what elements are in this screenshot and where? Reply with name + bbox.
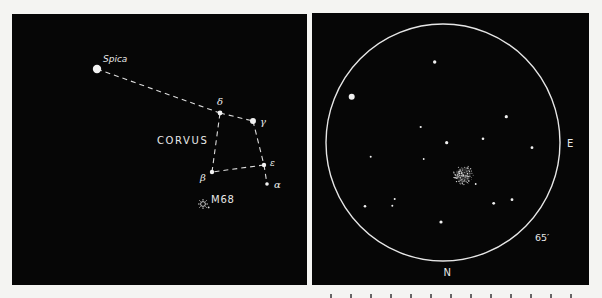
cluster-star [469, 170, 470, 171]
cluster-star [453, 173, 454, 174]
constellation-line-epsilon-beta [212, 165, 264, 172]
cluster-star [466, 176, 467, 177]
cluster-star [463, 175, 464, 176]
cluster-star [467, 175, 468, 176]
cluster-star [468, 183, 469, 184]
cluster-star [471, 177, 472, 178]
field-star [511, 198, 514, 201]
field-of-view-circle [326, 24, 560, 261]
cluster-star [462, 170, 463, 171]
cluster-star [466, 168, 467, 169]
star-label-beta: β [199, 172, 206, 183]
cluster-star [458, 167, 459, 168]
cluster-star [464, 177, 465, 178]
constellation-stars: Spicaδγεβα [93, 54, 281, 190]
cluster-star [471, 173, 472, 174]
cluster-star [471, 170, 472, 171]
star-spica [93, 65, 101, 73]
m68-cluster [453, 166, 473, 185]
cluster-star [459, 173, 460, 174]
field-star [445, 141, 448, 144]
field-stars [349, 60, 534, 223]
cluster-star [466, 170, 467, 171]
cluster-star [456, 175, 457, 176]
cluster-star [459, 182, 460, 183]
star-label-gamma: γ [260, 116, 266, 127]
cluster-star [463, 184, 464, 185]
cluster-star [465, 169, 466, 170]
cluster-star [458, 176, 459, 177]
field-star [505, 115, 508, 118]
cluster-star [464, 178, 465, 179]
field-star [370, 156, 372, 158]
cluster-star [473, 175, 474, 176]
constellation-lines [97, 69, 267, 184]
cluster-star [470, 168, 471, 169]
m68-label: M68 [211, 194, 235, 205]
cluster-star [464, 179, 465, 180]
cluster-star [471, 179, 472, 180]
star-epsilon [262, 163, 266, 167]
cropped-caption-text [312, 291, 602, 298]
field-star [531, 146, 534, 149]
cluster-star [460, 184, 461, 185]
cluster-star [454, 174, 455, 175]
cluster-star [454, 177, 455, 178]
constellation-line-spica-delta [97, 69, 220, 113]
cluster-star [453, 177, 454, 178]
finder-chart: Spicaδγεβα CORVUS M68 [12, 14, 307, 285]
cluster-star [457, 174, 458, 175]
cluster-star [460, 178, 461, 179]
cluster-star [457, 171, 458, 172]
cluster-star [469, 175, 470, 176]
cluster-star [462, 181, 463, 182]
cluster-star [470, 173, 471, 174]
constellation-line-epsilon-alpha [264, 165, 267, 184]
star-label-delta: δ [217, 96, 223, 107]
cluster-star [469, 176, 470, 177]
cluster-star [456, 178, 457, 179]
field-star [433, 60, 436, 63]
cluster-star [464, 172, 465, 173]
field-star [364, 205, 367, 208]
cluster-star [462, 183, 463, 184]
cluster-star [464, 172, 465, 173]
star-gamma [250, 118, 256, 124]
cluster-star [472, 173, 473, 174]
cluster-star [467, 173, 468, 174]
cluster-star [468, 178, 469, 179]
field-of-view-label: 65′ [535, 232, 549, 243]
star-delta [218, 111, 223, 116]
cluster-star [469, 171, 470, 172]
cluster-star [461, 179, 462, 180]
constellation-line-delta-gamma [220, 113, 253, 121]
finder-chart-panel: Spicaδγεβα CORVUS M68 [12, 14, 307, 285]
cluster-star [460, 180, 461, 181]
cluster-star [467, 167, 468, 168]
cluster-star [460, 175, 461, 176]
field-star [492, 202, 495, 205]
cluster-star [468, 180, 469, 181]
cluster-star [459, 175, 460, 176]
cluster-star [453, 172, 454, 173]
field-star [349, 94, 355, 100]
constellation-line-beta-delta [212, 113, 220, 172]
cluster-star [457, 177, 458, 178]
cluster-star [460, 178, 461, 179]
cluster-star [463, 178, 464, 179]
cluster-star [459, 171, 460, 172]
cluster-star [462, 184, 463, 185]
cluster-star [462, 176, 463, 177]
globular-cluster-icon [198, 199, 210, 209]
north-label: N [444, 267, 451, 278]
cluster-star [461, 167, 462, 168]
field-star [420, 126, 422, 128]
eyepiece-view: E N 65′ [312, 13, 589, 285]
cluster-star [466, 181, 467, 182]
cluster-star [467, 182, 468, 183]
east-label: E [567, 138, 573, 149]
field-star [475, 183, 477, 185]
cluster-star [464, 181, 465, 182]
cluster-star [465, 181, 466, 182]
field-star [394, 198, 396, 200]
